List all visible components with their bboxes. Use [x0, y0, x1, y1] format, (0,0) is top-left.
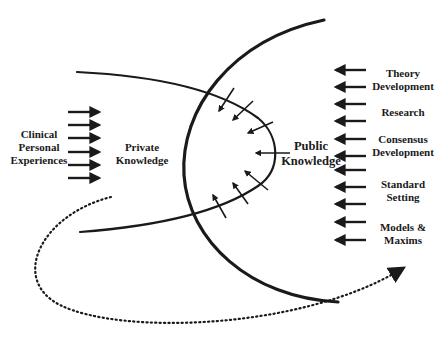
- clinical-experience-arrows: [68, 112, 99, 178]
- clinical-personal-experiences-label: Clinical Personal Experiences: [10, 128, 68, 167]
- consensus-development-label: Consensus Development: [366, 133, 440, 159]
- private-knowledge-label: Private Knowledge: [112, 141, 172, 167]
- label-line: Maxims: [366, 234, 440, 247]
- label-line: Knowledge: [112, 154, 172, 167]
- label-line: Experiences: [10, 154, 68, 167]
- label-line: Knowledge: [278, 154, 344, 169]
- label-line: Consensus: [366, 133, 440, 146]
- label-line: Setting: [366, 191, 440, 204]
- theory-development-label: Theory Development: [366, 67, 440, 93]
- inward-arrow-icon: [219, 88, 234, 111]
- label-line: Models &: [366, 221, 440, 234]
- research-label: Research: [366, 106, 440, 119]
- private-knowledge-parabola: [77, 72, 275, 232]
- standard-setting-label: Standard Setting: [366, 178, 440, 204]
- label-line: Standard: [366, 178, 440, 191]
- label-line: Personal: [10, 141, 68, 154]
- models-maxims-label: Models & Maxims: [366, 221, 440, 247]
- knowledge-diagram: [0, 0, 442, 346]
- public-knowledge-label: Public Knowledge: [278, 139, 344, 169]
- label-line: Public: [278, 139, 344, 154]
- label-line: Development: [366, 146, 440, 159]
- label-line: Development: [366, 80, 440, 93]
- dotted-cycle-arrow: [35, 197, 400, 323]
- label-line: Private: [112, 141, 172, 154]
- label-line: Clinical: [10, 128, 68, 141]
- label-line: Theory: [366, 67, 440, 80]
- label-line: Research: [366, 106, 440, 119]
